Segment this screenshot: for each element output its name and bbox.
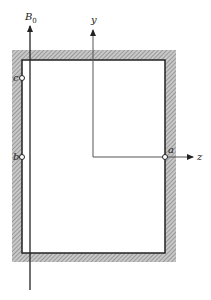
point-b (20, 155, 25, 160)
diagram-canvas: B0 y z c b a (0, 0, 211, 300)
conducting-wall (12, 50, 176, 262)
point-a (163, 155, 168, 160)
point-c-label: c (13, 72, 19, 83)
point-b-label: b (13, 151, 19, 162)
z-axis-label: z (196, 151, 203, 162)
b0-label: B0 (24, 11, 37, 25)
point-c (20, 76, 25, 81)
point-a-label: a (168, 144, 174, 155)
y-axis-label: y (90, 14, 97, 25)
